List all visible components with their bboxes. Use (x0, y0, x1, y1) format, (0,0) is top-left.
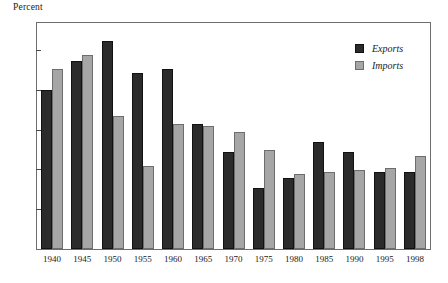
bar-exports-1998 (404, 172, 415, 249)
bar-imports-1990 (354, 170, 365, 249)
x-axis-labels: 1940194519501955196019651970197519801985… (37, 254, 430, 270)
bar-group (162, 23, 184, 249)
bar-group (223, 23, 245, 249)
bar-exports-1985 (313, 142, 324, 249)
bar-imports-1955 (143, 166, 154, 249)
bar-exports-1945 (71, 61, 82, 249)
legend-label: Imports (372, 60, 403, 71)
imports-swatch-icon (355, 61, 364, 70)
bar-exports-1940 (41, 90, 52, 249)
bar-exports-1965 (192, 124, 203, 249)
bar-exports-1980 (283, 178, 294, 249)
bar-imports-1960 (173, 124, 184, 249)
bar-imports-1998 (415, 156, 426, 249)
legend-item-imports: Imports (355, 58, 427, 73)
bar-exports-1990 (343, 152, 354, 249)
bar-imports-1985 (324, 172, 335, 249)
bar-group (71, 23, 93, 249)
bar-group (283, 23, 305, 249)
bar-exports-1950 (102, 41, 113, 249)
bar-group (41, 23, 63, 249)
x-axis-label: 1998 (395, 254, 435, 264)
bar-imports-1965 (203, 126, 214, 249)
bar-group (132, 23, 154, 249)
bar-group (313, 23, 335, 249)
bar-exports-1955 (132, 73, 143, 249)
bar-imports-1950 (113, 116, 124, 249)
bar-exports-1970 (223, 152, 234, 249)
bar-imports-1945 (82, 55, 93, 249)
bar-imports-1980 (294, 174, 305, 249)
bar-exports-1960 (162, 69, 173, 249)
legend-item-exports: Exports (355, 41, 427, 56)
chart-legend: ExportsImports (355, 41, 427, 75)
exports-swatch-icon (355, 44, 364, 53)
bar-group (102, 23, 124, 249)
bar-group (192, 23, 214, 249)
bar-group (253, 23, 275, 249)
legend-label: Exports (372, 43, 403, 54)
bar-exports-1975 (253, 188, 264, 249)
bar-exports-1995 (374, 172, 385, 249)
y-axis-unit-title: Percent (13, 2, 43, 12)
bar-imports-1995 (385, 168, 396, 249)
bar-imports-1970 (234, 132, 245, 249)
bar-imports-1975 (264, 150, 275, 249)
chart-figure: Percent 1020304050 194019451950195519601… (0, 0, 448, 283)
bar-imports-1940 (52, 69, 63, 249)
